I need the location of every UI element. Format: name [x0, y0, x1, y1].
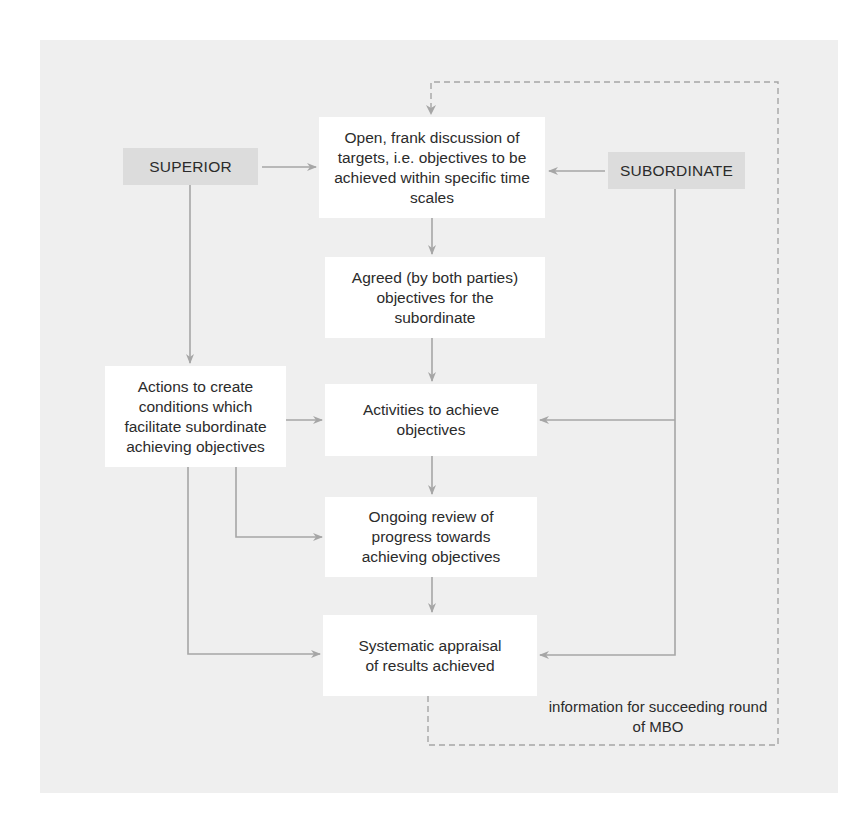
- step-appraisal-label: Systematic appraisal of results achieved: [351, 636, 509, 676]
- step-agreed-label: Agreed (by both parties) objectives for …: [335, 268, 535, 328]
- superior-label: SUPERIOR: [149, 158, 232, 176]
- subordinate-actor: SUBORDINATE: [608, 152, 745, 189]
- step-activities-label: Activities to achieve objectives: [355, 400, 507, 440]
- step-ongoing-review: Ongoing review of progress towards achie…: [325, 497, 537, 577]
- step-activities: Activities to achieve objectives: [325, 384, 537, 456]
- side-step-actions-label: Actions to create conditions which facil…: [111, 377, 280, 457]
- step-systematic-appraisal: Systematic appraisal of results achieved: [323, 615, 537, 696]
- step-discussion-label: Open, frank discussion of targets, i.e. …: [333, 128, 531, 208]
- superior-actor: SUPERIOR: [123, 148, 258, 185]
- feedback-note: information for succeeding round of MBO: [548, 697, 768, 737]
- step-discussion: Open, frank discussion of targets, i.e. …: [319, 117, 545, 218]
- feedback-note-label: information for succeeding round of MBO: [549, 698, 767, 735]
- step-review-label: Ongoing review of progress towards achie…: [343, 507, 519, 567]
- step-agreed-objectives: Agreed (by both parties) objectives for …: [325, 257, 545, 338]
- side-step-actions: Actions to create conditions which facil…: [105, 366, 286, 467]
- subordinate-label: SUBORDINATE: [620, 162, 733, 180]
